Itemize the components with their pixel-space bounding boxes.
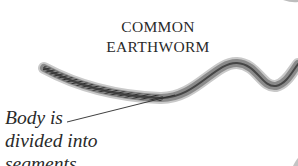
title-line-2: EARTHWORM — [96, 37, 220, 57]
worm-fragment-bottom — [293, 158, 298, 166]
annotation-line-1: Body is — [5, 106, 98, 129]
diagram-title: COMMON EARTHWORM — [96, 17, 220, 57]
annotation-line-2: divided into — [5, 129, 98, 152]
annotation-line-3: segments — [5, 152, 98, 166]
segments-annotation: Body is divided into segments — [5, 106, 98, 166]
worm-fragment-top — [283, 0, 298, 2]
title-line-1: COMMON — [96, 17, 220, 37]
